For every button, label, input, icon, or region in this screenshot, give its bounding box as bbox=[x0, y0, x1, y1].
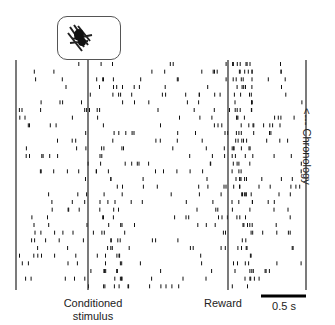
spike-ticks bbox=[19, 62, 302, 288]
stimulus-picture-icon bbox=[58, 17, 120, 59]
scale-bar-label: 0.5 s bbox=[262, 300, 306, 313]
reward-label: Reward bbox=[198, 297, 248, 310]
chronology-axis-label: <--- Chronology bbox=[301, 108, 313, 185]
stimulus-icon-box bbox=[57, 16, 121, 60]
cs-label: Conditioned stimulus bbox=[58, 297, 128, 323]
raster-plot bbox=[0, 0, 335, 325]
